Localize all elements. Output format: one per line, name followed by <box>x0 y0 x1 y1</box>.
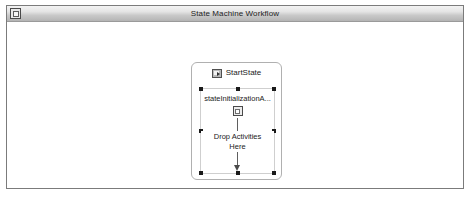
window-title-bar: State Machine Workflow <box>7 6 463 22</box>
drop-activities-placeholder[interactable]: Drop Activities Here <box>201 131 274 152</box>
connector-arrow-icon <box>234 165 240 171</box>
resize-handle-top-left[interactable] <box>199 87 203 91</box>
state-initialization-icon-inner <box>235 109 240 114</box>
state-node-startstate[interactable]: StartState stateInitializationA... Drop … <box>191 62 282 180</box>
state-machine-designer-window: State Machine Workflow Workflow1 : Start… <box>6 5 464 189</box>
resize-handle-top-center[interactable] <box>236 87 240 91</box>
state-node-title: StartState <box>226 68 262 78</box>
resize-handle-bottom-center[interactable] <box>236 171 240 175</box>
state-initialization-icon[interactable] <box>233 106 243 116</box>
activity-label: stateInitializationA... <box>201 94 274 103</box>
resize-handle-top-right[interactable] <box>272 87 276 91</box>
state-node-header: StartState <box>192 68 281 78</box>
resize-handle-bottom-left[interactable] <box>199 171 203 175</box>
window-restore-icon[interactable] <box>10 8 21 19</box>
window-restore-icon-inner <box>13 11 19 17</box>
workflow-canvas[interactable]: StartState stateInitializationA... Drop … <box>7 23 463 188</box>
drop-activities-line-2: Here <box>201 142 274 152</box>
drop-activities-line-1: Drop Activities <box>201 132 274 142</box>
start-state-icon <box>212 69 222 78</box>
selected-activity-region[interactable]: stateInitializationA... Drop Activities … <box>200 88 275 174</box>
window-title: State Machine Workflow <box>191 9 279 19</box>
resize-handle-bottom-right[interactable] <box>272 171 276 175</box>
